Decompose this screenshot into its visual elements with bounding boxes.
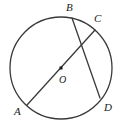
center-point-dot [60,67,63,70]
point-label-d: D [104,102,112,113]
point-label-b: B [66,2,73,13]
point-label-o: O [59,74,66,85]
point-label-c: C [94,13,101,24]
circle-geometry-figure: A B C D O [0,0,120,126]
point-label-a: A [14,106,21,117]
